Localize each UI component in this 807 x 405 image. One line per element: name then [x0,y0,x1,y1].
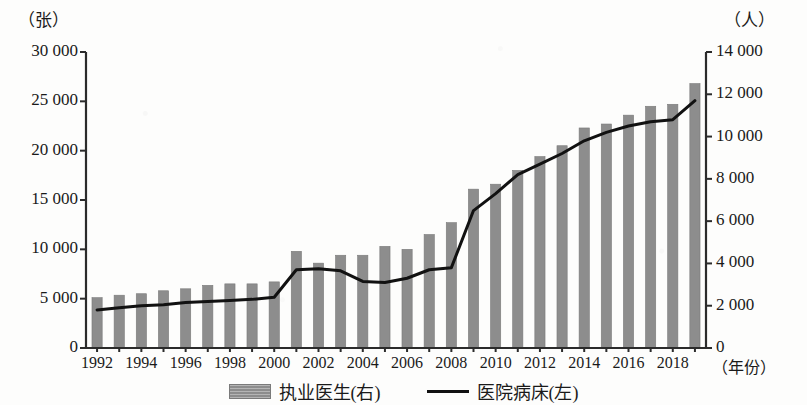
bar-1999 [247,284,257,348]
right-axis-unit-label: （人） [724,6,775,31]
left-tick-5000: 5 000 [0,288,78,308]
bar-series [92,84,700,348]
bar-2005 [380,246,390,348]
chart-legend: 执业医生(右) 医院病床(左) [0,378,807,404]
left-tick-0: 0 [0,337,78,357]
x-tick-2014: 2014 [561,354,607,372]
legend-label-bar: 执业医生(右) [279,378,381,404]
x-tick-2008: 2008 [428,354,474,372]
right-tick-12000: 12 000 [716,83,763,103]
right-tick-14000: 14 000 [716,41,763,61]
right-tick-6000: 6 000 [716,210,754,230]
bar-2012 [535,157,545,348]
bar-1993 [114,295,124,348]
x-axis-unit-label: （年份） [712,354,776,378]
bar-1998 [225,284,235,348]
x-tick-1992: 1992 [74,354,120,372]
left-axis-unit-label: （张） [18,6,69,31]
legend-item-bar: 执业医生(右) [229,378,381,404]
bar-2018 [668,104,678,348]
x-tick-2004: 2004 [340,354,386,372]
left-tick-15000: 15 000 [0,189,78,209]
left-tick-10000: 10 000 [0,238,78,258]
x-tick-2006: 2006 [384,354,430,372]
bar-1997 [203,285,213,348]
bar-2006 [402,249,412,348]
chart-container: （张） （人） 30 00025 00020 00015 00010 0005 … [0,0,807,405]
legend-item-line: 医院病床(左) [427,378,579,404]
legend-label-line: 医院病床(左) [477,378,579,404]
left-tick-25000: 25 000 [0,90,78,110]
right-tick-2000: 2 000 [716,295,754,315]
bar-swatch-icon [229,384,271,399]
x-tick-2018: 2018 [650,354,696,372]
x-tick-2016: 2016 [606,354,652,372]
bar-1996 [181,289,191,348]
bar-2007 [424,235,434,348]
chart-graphic [86,52,706,348]
bar-2017 [646,106,656,348]
bar-1995 [158,291,168,348]
bar-2013 [557,146,567,348]
x-tick-1994: 1994 [118,354,164,372]
x-tick-1996: 1996 [163,354,209,372]
bar-2008 [446,223,456,348]
bar-2004 [358,255,368,348]
line-swatch-icon [427,390,469,393]
bar-2002 [313,263,323,348]
bar-2015 [601,124,611,348]
plot-area [86,52,706,348]
x-tick-1998: 1998 [207,354,253,372]
left-tick-20000: 20 000 [0,140,78,160]
left-tick-30000: 30 000 [0,41,78,61]
x-tick-2010: 2010 [473,354,519,372]
bar-2010 [491,184,501,348]
bar-2019 [690,84,700,348]
x-tick-2000: 2000 [251,354,297,372]
right-tick-10000: 10 000 [716,126,763,146]
right-tick-8000: 8 000 [716,168,754,188]
x-tick-2002: 2002 [296,354,342,372]
bar-2016 [623,115,633,348]
bar-2001 [291,251,301,348]
x-tick-2012: 2012 [517,354,563,372]
right-tick-4000: 4 000 [716,252,754,272]
bar-2011 [513,170,523,348]
bar-2014 [579,128,589,348]
bar-1994 [136,294,146,348]
bar-1992 [92,298,102,348]
